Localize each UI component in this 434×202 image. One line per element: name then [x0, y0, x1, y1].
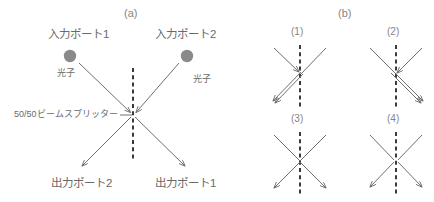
photon-right-dot	[181, 50, 193, 62]
case-2-ray-out-pair-a	[393, 71, 423, 101]
case-1-ray-in-right	[301, 48, 326, 74]
case-3-tag: (3)	[291, 114, 303, 124]
case-2-tag: (2)	[387, 27, 399, 37]
output-port-1-label: 出力ポート1	[155, 178, 216, 190]
case-3-ray-in-left	[274, 135, 300, 161]
panel-a-graphic	[64, 50, 193, 166]
case-4-ray-in-right	[398, 135, 422, 160]
photon-left-dot	[64, 50, 76, 62]
ray-output-1	[135, 117, 185, 166]
case-2-graphic	[370, 45, 423, 107]
beam-splitter-figure: (a) (b) 入力ポート1 入力ポート2 光子 光子 50/50ビームスプリッ…	[0, 0, 434, 202]
case-4-graphic	[370, 132, 422, 194]
case-3-ray-out-right	[300, 162, 326, 188]
panel-a-tag: (a)	[124, 8, 137, 19]
input-port-2-label: 入力ポート2	[155, 29, 216, 41]
case-3-graphic	[274, 132, 326, 194]
photon-right-label: 光子	[193, 75, 211, 84]
output-port-2-label: 出力ポート2	[51, 178, 112, 190]
beam-splitter-label: 50/50ビームスプリッター	[14, 110, 118, 119]
case-3-ray-out-left	[274, 162, 300, 188]
case-1-ray-out-pair-b	[275, 74, 303, 103]
case-1-ray-out-pair-a	[273, 72, 301, 101]
case-1-tag: (1)	[291, 27, 303, 37]
case-4-tag: (4)	[387, 114, 399, 124]
case-1-ray-in-left	[274, 48, 299, 72]
case-1-graphic	[273, 45, 326, 107]
case-3-ray-in-right	[300, 135, 326, 161]
case-2-ray-in-right	[397, 48, 422, 73]
case-2-ray-in-left	[370, 48, 395, 73]
ray-output-2	[82, 117, 131, 166]
panel-b-tag: (b)	[338, 8, 351, 19]
case-4-ray-out-right	[398, 162, 422, 187]
input-port-1-label: 入力ポート1	[48, 29, 109, 41]
case-4-ray-out-left	[370, 162, 394, 187]
photon-left-label: 光子	[57, 69, 75, 78]
ray-input-2	[136, 63, 179, 113]
case-4-ray-in-left	[370, 135, 394, 160]
ray-input-1	[79, 63, 131, 113]
